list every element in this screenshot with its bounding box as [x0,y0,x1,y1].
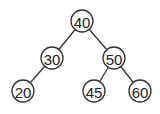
tree-diagram: 40 30 50 20 45 60 [0,0,160,114]
node-label: 45 [86,84,103,101]
node-label: 50 [106,51,123,68]
node-label: 30 [44,51,61,68]
tree-node-left-left: 20 [12,80,34,102]
tree-node-right-left: 45 [83,80,105,102]
node-label: 40 [74,14,91,31]
tree-node-root: 40 [71,10,93,32]
tree-node-right: 50 [103,47,125,69]
tree-node-right-right: 60 [129,80,151,102]
node-label: 20 [15,84,32,101]
node-label: 60 [132,84,149,101]
tree-node-left: 30 [41,47,63,69]
